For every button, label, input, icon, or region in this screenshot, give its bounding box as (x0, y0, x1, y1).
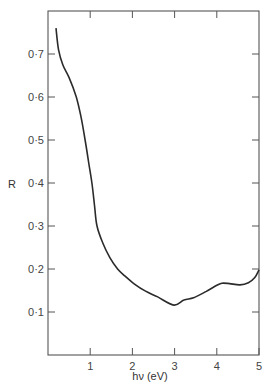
x-tick-label: 1 (87, 360, 93, 372)
reflectance-chart: 12345 0·10·20·30·40·50·60·7 hν (eV) R (0, 0, 271, 392)
x-axis-label: hν (eV) (132, 370, 167, 382)
plot-border (48, 11, 259, 355)
x-tick-label: 5 (256, 360, 262, 372)
x-tick-label: 3 (172, 360, 178, 372)
x-tick-label: 4 (214, 360, 220, 372)
x-axis-ticks: 12345 (87, 11, 262, 372)
y-tick-label: 0·3 (28, 220, 44, 232)
y-axis-ticks: 0·10·20·30·40·50·60·7 (28, 48, 259, 318)
y-tick-label: 0·4 (28, 177, 44, 189)
reflectance-curve (56, 28, 259, 305)
y-tick-label: 0·7 (28, 48, 44, 60)
y-tick-label: 0·1 (28, 306, 44, 318)
y-axis-label: R (8, 178, 16, 190)
plot-frame (48, 11, 259, 355)
y-tick-label: 0·6 (28, 91, 44, 103)
y-tick-label: 0·5 (28, 134, 44, 146)
y-tick-label: 0·2 (28, 263, 44, 275)
